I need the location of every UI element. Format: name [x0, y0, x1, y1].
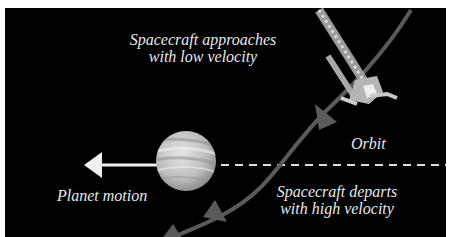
orbit-label: Orbit: [351, 135, 386, 152]
planet-motion-label: Planet motion: [57, 187, 147, 204]
planet-icon: [155, 131, 219, 191]
depart-label-line2: with high velocity: [269, 200, 405, 217]
approach-label-line1: Spacecraft approaches: [115, 31, 291, 48]
approach-label-line2: with low velocity: [115, 48, 291, 65]
depart-label-line1: Spacecraft departs: [269, 183, 405, 200]
trajectory-arrow-icon: [315, 104, 337, 130]
depart-label: Spacecraft departs with high velocity: [269, 183, 405, 217]
planet-motion-arrow-icon: [84, 152, 102, 178]
trajectory-arrow-icon: [203, 200, 227, 222]
trajectory-arrow-icon: [161, 224, 183, 237]
approach-label: Spacecraft approaches with low velocity: [115, 31, 291, 65]
spacecraft-icon: [319, 10, 397, 104]
diagram-panel: Spacecraft approaches with low velocity …: [5, 8, 446, 237]
